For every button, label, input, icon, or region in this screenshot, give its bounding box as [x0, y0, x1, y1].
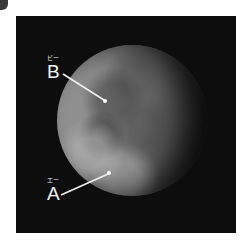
- pointer-b-line: [63, 74, 104, 100]
- pointer-b-dot: [103, 99, 107, 103]
- label-b: B: [47, 62, 60, 81]
- pointer-lines: [0, 0, 250, 250]
- pointer-a-line: [61, 174, 108, 195]
- pointer-a-dot: [107, 171, 111, 175]
- label-a: A: [47, 184, 60, 203]
